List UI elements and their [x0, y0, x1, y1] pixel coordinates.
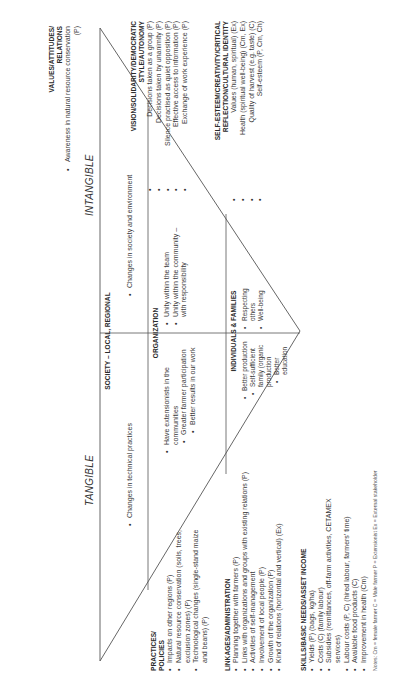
list-item: Costs (C) (family labour)	[317, 471, 326, 671]
organization-title: ORGANIZATION	[152, 233, 160, 433]
values-title-line1: VALUES/ATTITUDES/	[48, 26, 56, 171]
values-block: VALUES/ATTITUDES/ RELATIONS Awareness in…	[48, 26, 82, 171]
list-item: Values (human, spiritual) (Ex)	[230, 21, 239, 201]
skills-block: SKILLS/BASIC NEEDS/ASSET INCOME Yields (…	[300, 471, 368, 671]
list-item: Impacts on other regions (P)	[166, 521, 175, 671]
organization-intangible-list: Unity within the team Unity within the c…	[163, 220, 189, 325]
list-item: Unity within the community – with respon…	[172, 220, 189, 325]
vision-block: VISION/SOLIDARITY/DEMOCRATIC STYLE/AUTON…	[130, 21, 189, 191]
list-item: Better results in our work	[189, 335, 198, 433]
list-item: Technological changes (single-stand maiz…	[192, 521, 209, 671]
list-item: Better education	[273, 335, 289, 383]
linkages-title: LINKAGES/ADMINISTRATION	[224, 471, 232, 671]
list-item: Health (spiritual well-being) (Cm, Ex)	[239, 21, 248, 201]
list-item: Have extensionists in the communities	[163, 335, 180, 453]
list-item: Improvement in health (Cm)	[360, 471, 369, 671]
practices-block: PRACTICES/ POLICIES Impacts on other reg…	[150, 521, 209, 671]
list-item: Labour costs (P, C) (hired labour, farme…	[343, 471, 352, 671]
tangible-label: TANGIBLE	[84, 455, 95, 506]
society-tangible-list: Changes in technical practices	[126, 336, 135, 526]
list-item: Effective access to information (P)	[172, 21, 181, 191]
individuals-title: INDIVIDUALS & FAMILIES	[230, 241, 238, 421]
list-item: Better production	[241, 335, 249, 399]
list-item: Growth of the organization (P)	[267, 471, 276, 671]
list-item: Quality of harvest (e.g. taste) (C)	[248, 21, 257, 201]
list-item: Planning together with farmers (P)	[232, 471, 241, 671]
values-title-line2: RELATIONS	[56, 26, 64, 171]
list-item: Kind of relations (horizontal and vertic…	[275, 471, 284, 671]
list-item: Exchange of work experience (P)	[181, 21, 190, 191]
selfesteem-title-line1: SELF-ESTEEM/CREATIVITY/CRITICAL	[214, 21, 222, 201]
diagram-stage: TANGIBLE INTANGIBLE SOCIETY – LOCAL, REG…	[0, 0, 399, 691]
list-item: Decisions taken by unanimity (P)	[155, 21, 164, 191]
list-item: Subsidies (remittances, off-farm activit…	[325, 471, 342, 671]
list-item: Self-sufficient family (organic producti…	[249, 335, 273, 395]
list-item: Available food products (C)	[351, 471, 360, 671]
list-item: Changes in technical practices	[126, 336, 135, 526]
vision-title-line1: VISION/SOLIDARITY/DEMOCRATIC	[130, 21, 138, 191]
skills-title: SKILLS/BASIC NEEDS/ASSET INCOME	[300, 471, 308, 671]
list-item: Activities of self-management	[249, 471, 258, 671]
list-item: Awareness in natural resource conservati…	[64, 26, 81, 171]
legend-notes: Notes: Cm = female farmer C = Male farme…	[372, 271, 378, 671]
list-item: Silence practised as quiet opposition (P…	[164, 21, 173, 191]
list-item: Greater farmer participation	[180, 335, 189, 443]
linkages-block: LINKAGES/ADMINISTRATION Planning togethe…	[224, 471, 284, 671]
organization-tangible-list: Have extensionists in the communities Gr…	[163, 335, 197, 453]
list-item: Involvement of local people (P)	[258, 471, 267, 671]
intangible-label: INTANGIBLE	[84, 154, 95, 216]
list-item: Yields (P) (bags, kg/ha)	[308, 471, 317, 671]
list-item: Natural resource conservation (soils, tr…	[175, 521, 192, 671]
selfesteem-title-line2: REFLECTION/CULTURAL IDENTITY	[222, 21, 230, 201]
society-title: SOCIETY – LOCAL, REGIONAL	[104, 191, 112, 491]
list-item: Unity within the team	[163, 220, 172, 325]
list-item: Well-being	[257, 287, 265, 329]
practices-title-line2: POLICIES	[158, 521, 166, 671]
list-item: Decisions taken as a group (P)	[146, 21, 155, 191]
list-item: Links with organizations and groups with…	[241, 471, 250, 671]
practices-title-line1: PRACTICES/	[150, 521, 158, 671]
vision-title-line2: STYLE/AUTONOMY	[138, 21, 146, 191]
individuals-tangible-list: Better production Self-sufficient family…	[241, 335, 289, 399]
list-item: Respecting others	[241, 287, 257, 329]
selfesteem-block: SELF-ESTEEM/CREATIVITY/CRITICAL REFLECTI…	[214, 21, 265, 201]
individuals-intangible-list: Respecting others Well-being	[241, 287, 265, 329]
list-item: Self-esteem (P, Cm, Ch)	[256, 21, 265, 201]
